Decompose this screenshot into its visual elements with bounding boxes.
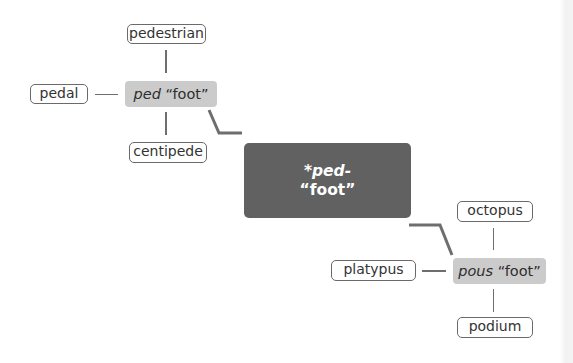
core-node-ped: *ped- “foot”: [244, 143, 411, 218]
connector-core-to-ped: [209, 110, 242, 133]
connector-pous-bottom: [493, 289, 495, 312]
word-box-podium: podium: [457, 317, 533, 338]
root-node-pous: pous “foot”: [453, 258, 546, 284]
root-pous-gloss: “foot”: [498, 263, 541, 279]
root-pous-term: pous: [458, 263, 493, 279]
connector-pous-top: [493, 228, 495, 250]
core-root-gloss: “foot”: [300, 181, 356, 200]
connector-core-to-pous: [409, 225, 452, 255]
word-box-octopus: octopus: [457, 201, 533, 222]
word-box-platypus: platypus: [331, 260, 416, 281]
core-root-term: *ped-: [304, 162, 351, 181]
connector-pous-left: [422, 270, 446, 272]
